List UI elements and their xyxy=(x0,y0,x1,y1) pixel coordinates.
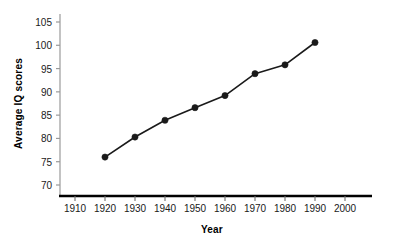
x-tick-label: 1950 xyxy=(184,203,206,214)
x-axis xyxy=(59,196,372,201)
x-tick-label: 1990 xyxy=(304,203,326,214)
y-tick-label: 105 xyxy=(20,17,52,28)
x-tick-label: 1960 xyxy=(214,203,236,214)
data-point-marker xyxy=(192,105,198,111)
iq-line-chart: 707580859095100105 191019201930194019501… xyxy=(0,0,394,246)
x-tick-label: 1930 xyxy=(124,203,146,214)
y-tick-label: 85 xyxy=(20,110,52,121)
x-tick-label: 1920 xyxy=(94,203,116,214)
y-tick-label: 70 xyxy=(20,180,52,191)
y-axis xyxy=(56,14,60,196)
data-point-marker xyxy=(252,71,258,77)
x-tick-label: 1940 xyxy=(154,203,176,214)
data-point-marker xyxy=(102,154,108,160)
y-tick-label: 90 xyxy=(20,86,52,97)
data-point-marker xyxy=(282,62,288,68)
data-point-marker xyxy=(222,92,228,98)
y-axis-title: Average IQ scores xyxy=(12,58,23,149)
y-tick-label: 95 xyxy=(20,63,52,74)
y-tick-label: 100 xyxy=(20,40,52,51)
data-series xyxy=(102,39,318,160)
data-point-marker xyxy=(132,134,138,140)
x-axis-title: Year xyxy=(201,224,223,235)
x-tick-label: 1980 xyxy=(274,203,296,214)
data-point-marker xyxy=(312,39,318,45)
x-tick-label: 1910 xyxy=(64,203,86,214)
y-tick-label: 75 xyxy=(20,156,52,167)
x-tick-label: 2000 xyxy=(334,203,356,214)
x-tick-label: 1970 xyxy=(244,203,266,214)
data-point-marker xyxy=(162,117,168,123)
y-tick-label: 80 xyxy=(20,133,52,144)
